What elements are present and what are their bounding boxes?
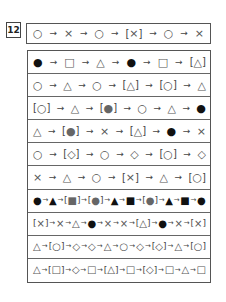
option-row[interactable]: ○→△→○→[△]→[○]→△ [28,74,210,97]
bracketed-triangle-icon: [△] [136,219,151,229]
arrow-right-icon: → [145,173,153,182]
arrow-right-icon: → [108,81,116,90]
arrow-right-icon: → [124,104,132,113]
filled-triangle-icon: ▲ [111,196,119,206]
cross-icon: × [56,219,64,229]
filled-square-icon: ■ [180,196,189,206]
bracketed-circle-icon: [○] [49,242,65,252]
filled-circle-icon: ● [158,219,167,229]
circle-icon: ○ [33,149,43,160]
circle-icon: ○ [119,242,128,252]
option-row[interactable]: ●→□→△→●→□→[△] [28,51,210,74]
arrow-right-icon: → [136,267,142,274]
arrow-right-icon: → [97,243,103,250]
filled-circle-icon: ● [87,219,96,229]
square-icon: □ [64,57,74,68]
option-row[interactable]: [×]→×→△→●→×→×→[△]→●→×→[×] [28,213,210,236]
arrow-right-icon: → [159,197,165,204]
filled-triangle-icon: ▲ [165,196,173,206]
arrow-right-icon: → [65,267,71,274]
bracketed-diamond-icon: [◇] [143,265,158,275]
arrow-right-icon: → [86,127,94,136]
circle-icon: ○ [33,80,43,91]
bracketed-circle-icon: [○] [33,103,50,114]
option-row[interactable]: [○]→△→[●]→○→△→● [28,97,210,120]
option-row[interactable]: ×→△→○→[×]→△→[○] [28,166,210,189]
prompt-sequence: ○→×→○→[×]→○→× [27,24,210,43]
arrow-right-icon: → [183,150,191,159]
arrow-right-icon: → [175,58,183,67]
filled-square-icon: ■ [126,196,135,206]
arrow-right-icon: → [116,127,124,136]
square-icon: □ [197,265,206,275]
option-row[interactable]: △→[□]→◇→□→[△]→□→[◇]→□→△→□ [28,259,210,282]
arrow-right-icon: → [97,220,103,227]
circle-icon: ○ [137,103,147,114]
arrow-right-icon: → [65,243,71,250]
bracketed-diamond-icon: [◇] [63,149,79,160]
arrow-right-icon: → [143,58,151,67]
arrow-right-icon: → [180,29,188,38]
arrow-right-icon: → [80,29,88,38]
bracketed-triangle-icon: [△] [104,265,119,275]
question-number: 12 [6,22,21,38]
arrow-right-icon: → [86,150,94,159]
option-row[interactable]: △→[○]→◇→◇→△→○→◇→[◇]→△→[○] [28,236,210,259]
triangle-icon: △ [197,80,205,91]
bracketed-filled-circle-icon: [●] [142,196,158,206]
prompt-sequence-box: ○→×→○→[×]→○→× [26,23,211,44]
arrow-right-icon: → [136,197,142,204]
arrow-right-icon: → [158,267,164,274]
diamond-icon: ◇ [136,242,144,252]
arrow-right-icon: → [50,58,58,67]
arrow-right-icon: → [48,127,56,136]
arrow-right-icon: → [57,197,63,204]
arrow-right-icon: → [112,58,120,67]
triangle-icon: △ [167,103,175,114]
option-row[interactable]: ●→▲→[■]→[●]→▲→■→[●]→▲→■→● [28,190,210,213]
arrow-right-icon: → [82,58,90,67]
cross-icon: × [195,28,204,39]
bracketed-cross-icon: [×] [125,28,142,39]
option-sequence: △→[□]→◇→□→[△]→□→[◇]→□→△→□ [33,265,206,275]
arrow-right-icon: → [184,220,190,227]
arrow-right-icon: → [113,220,119,227]
arrow-right-icon: → [104,197,110,204]
arrow-right-icon: → [129,243,135,250]
arrow-right-icon: → [49,150,57,159]
bracketed-triangle-icon: [△] [123,80,139,91]
bracketed-triangle-icon: [△] [190,57,206,68]
triangle-icon: △ [72,219,80,229]
bracketed-triangle-icon: [△] [130,126,146,137]
cross-icon: × [33,172,42,183]
option-row[interactable]: △→[●]→×→[△]→●→× [28,120,210,143]
triangle-icon: △ [160,172,168,183]
arrow-right-icon: → [111,29,119,38]
arrow-right-icon: → [116,150,124,159]
arrow-right-icon: → [50,29,58,38]
arrow-right-icon: → [49,173,57,182]
triangle-icon: △ [181,265,189,275]
triangle-icon: △ [63,80,71,91]
triangle-icon: △ [33,126,41,137]
cross-icon: × [64,28,73,39]
arrow-right-icon: → [65,220,71,227]
arrow-right-icon: → [183,81,191,90]
option-row[interactable]: ○→[◇]→○→◇→[○]→◇ [28,143,210,166]
filled-circle-icon: ● [33,196,42,206]
arrow-right-icon: → [190,197,196,204]
arrow-right-icon: → [168,243,174,250]
arrow-right-icon: → [108,173,116,182]
square-icon: □ [165,265,174,275]
bracketed-circle-icon: [○] [159,80,176,91]
triangle-icon: △ [63,172,71,183]
option-sequence: ○→△→○→[△]→[○]→△ [33,80,206,91]
circle-icon: ○ [94,28,104,39]
arrow-right-icon: → [78,173,86,182]
diamond-icon: ◇ [72,265,80,275]
filled-circle-icon: ● [196,103,206,114]
arrow-right-icon: → [154,104,162,113]
cross-icon: × [175,219,183,229]
triangle-icon: △ [175,242,183,252]
bracketed-filled-square-icon: [■] [64,196,80,206]
